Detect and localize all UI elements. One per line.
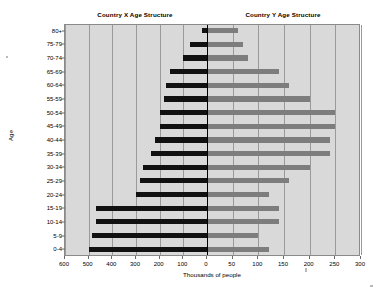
pyramid-row <box>65 189 359 203</box>
bar-left-35-39 <box>151 151 207 156</box>
x-tick-mark <box>334 256 335 259</box>
bar-right-20-24 <box>207 192 269 197</box>
pyramid-row <box>65 161 359 175</box>
x-tick-mark <box>182 256 183 259</box>
bar-left-70-74 <box>183 55 207 60</box>
x-tick-mark <box>111 256 112 259</box>
x-tick-mark <box>309 256 310 259</box>
y-tick-label-75-79: 75-79 <box>8 41 62 47</box>
bar-left-50-54 <box>160 110 207 115</box>
x-tick-label-left-100: 100 <box>177 261 187 267</box>
pyramid-row <box>65 230 359 244</box>
y-tick-mark <box>62 221 65 222</box>
y-tick-label-10-14: 10-14 <box>8 219 62 225</box>
bar-right-65-69 <box>207 69 279 74</box>
y-tick-label-65-69: 65-69 <box>8 69 62 75</box>
bar-right-10-14 <box>207 219 279 224</box>
right-panel-title: Country Y Age Structure <box>206 11 360 18</box>
x-tick-label-right-250: 250 <box>329 261 339 267</box>
bar-right-70-74 <box>207 55 248 60</box>
x-tick-mark <box>135 256 136 259</box>
x-tick-mark <box>64 256 65 259</box>
x-tick-mark <box>257 256 258 259</box>
x-tick-mark <box>360 256 361 259</box>
y-tick-label-35-39: 35-39 <box>8 151 62 157</box>
bar-left-60-64 <box>166 83 207 88</box>
bar-right-55-59 <box>207 96 310 101</box>
y-tick-label-50-54: 50-54 <box>8 110 62 116</box>
pyramid-row <box>65 216 359 230</box>
scan-artifact-2 <box>370 285 373 287</box>
y-tick-mark <box>62 153 65 154</box>
y-tick-label-20-24: 20-24 <box>8 192 62 198</box>
bar-left-15-19 <box>96 206 207 211</box>
bar-left-55-59 <box>164 96 207 101</box>
x-tick-mark <box>159 256 160 259</box>
pyramid-row <box>65 175 359 189</box>
x-tick-label-right-150: 150 <box>278 261 288 267</box>
y-tick-label-5-9: 5-9 <box>8 233 62 239</box>
x-tick-label-right-300: 300 <box>355 261 365 267</box>
x-axis-label: Thousands of people <box>64 271 360 278</box>
gridline-right-300 <box>361 25 362 255</box>
x-tick-label-right-50: 50 <box>228 261 235 267</box>
y-axis-label: Age <box>7 116 14 156</box>
bar-right-35-39 <box>207 151 330 156</box>
pyramid-row <box>65 121 359 135</box>
x-tick-label-right-200: 200 <box>304 261 314 267</box>
x-tick-label-left-400: 400 <box>106 261 116 267</box>
bar-left-5-9 <box>92 233 207 238</box>
bar-right-5-9 <box>207 233 258 238</box>
bar-left-0-4 <box>89 247 207 252</box>
pyramid-row <box>65 148 359 162</box>
pyramid-row <box>65 134 359 148</box>
scan-artifact-3 <box>6 56 8 58</box>
bar-right-0-4 <box>207 247 269 252</box>
y-tick-label-55-59: 55-59 <box>8 96 62 102</box>
x-tick-label-left-300: 300 <box>130 261 140 267</box>
bar-right-50-54 <box>207 110 335 115</box>
pyramid-row <box>65 202 359 216</box>
zero-axis-line <box>207 25 208 255</box>
y-tick-mark <box>62 235 65 236</box>
x-tick-label-left-500: 500 <box>83 261 93 267</box>
y-tick-mark <box>62 112 65 113</box>
y-tick-label-25-29: 25-29 <box>8 178 62 184</box>
bar-left-40-44 <box>155 137 207 142</box>
bar-right-25-29 <box>207 178 289 183</box>
bar-right-45-49 <box>207 124 335 129</box>
x-axis: 600500400300200100050100150200250300 <box>64 256 360 272</box>
x-tick-mark <box>283 256 284 259</box>
y-tick-label-40-44: 40-44 <box>8 137 62 143</box>
bar-left-10-14 <box>96 219 207 224</box>
bar-left-65-69 <box>170 69 207 74</box>
pyramid-row <box>65 52 359 66</box>
bar-left-45-49 <box>160 124 207 129</box>
y-tick-mark <box>62 208 65 209</box>
y-tick-mark <box>62 99 65 100</box>
x-tick-label-left-200: 200 <box>154 261 164 267</box>
pyramid-row <box>65 107 359 121</box>
scan-artifact-1 <box>305 268 307 272</box>
bar-right-60-64 <box>207 83 289 88</box>
pyramid-row <box>65 93 359 107</box>
x-tick-mark <box>232 256 233 259</box>
bar-left-25-29 <box>140 178 207 183</box>
bar-right-75-79 <box>207 42 243 47</box>
plot-area <box>64 24 360 256</box>
y-tick-mark <box>62 85 65 86</box>
bar-right-30-34 <box>207 165 310 170</box>
x-tick-label-left-600: 600 <box>59 261 69 267</box>
bar-left-30-34 <box>143 165 207 170</box>
bar-right-80+ <box>207 28 238 33</box>
y-tick-mark <box>62 58 65 59</box>
y-tick-mark <box>62 44 65 45</box>
bar-right-15-19 <box>207 206 279 211</box>
y-tick-mark <box>62 140 65 141</box>
x-tick-label-left-0: 0 <box>204 261 207 267</box>
x-tick-mark <box>206 256 207 259</box>
y-tick-label-0-4: 0-4 <box>8 246 62 252</box>
y-tick-label-30-34: 30-34 <box>8 164 62 170</box>
pyramid-row <box>65 25 359 39</box>
y-tick-label-80+: 80+ <box>8 28 62 34</box>
